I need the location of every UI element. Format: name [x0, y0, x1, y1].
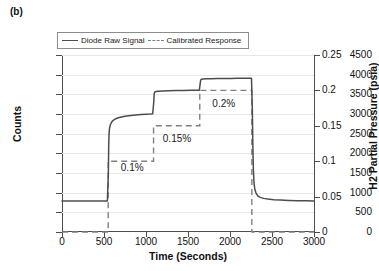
legend-label-calibrated-response: Calibrated Response [167, 36, 242, 45]
legend-label-diode-raw-signal: Diode Raw Signal [81, 36, 145, 45]
legend-entry-calibrated-response: Calibrated Response [148, 36, 245, 45]
calibrated-response-line [62, 90, 314, 232]
x-axis-title: Time (Seconds) [62, 250, 314, 262]
y-axis-title-right: H2 Partial Pressure (psia) [367, 36, 379, 216]
chart-legend: Diode Raw Signal Calibrated Response [57, 32, 249, 49]
legend-entry-diode-raw-signal: Diode Raw Signal [62, 36, 148, 45]
annotation-label: 0.1% [121, 162, 144, 173]
dashed-line-icon [148, 40, 164, 41]
y-axis-title-left: Counts [11, 79, 23, 169]
annotation-label: 0.15% [163, 133, 191, 144]
annotation-label: 0.2% [212, 98, 235, 109]
solid-line-icon [62, 40, 78, 41]
